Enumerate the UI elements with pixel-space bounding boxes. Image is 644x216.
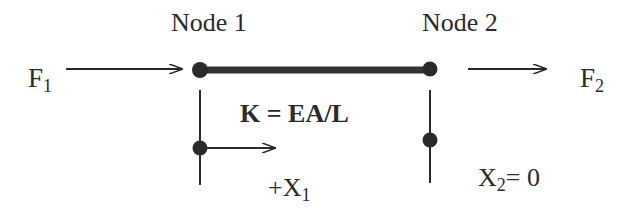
node-2-displacement-dot: [423, 133, 438, 148]
node-2-dot: [423, 62, 438, 77]
node-1-dot: [192, 62, 208, 78]
displacement-x1-label: +X1: [268, 173, 310, 205]
spring-element-diagram: Node 1 Node 2 F1 F2 K = EA/L +X1 X2= 0: [0, 0, 644, 216]
node-2-label: Node 2: [422, 8, 498, 37]
stiffness-label: K = EA/L: [240, 99, 349, 128]
force-f2-label: F2: [580, 63, 604, 96]
node-1-label: Node 1: [171, 8, 247, 37]
force-f1-label: F1: [28, 63, 52, 96]
displacement-x2-label: X2= 0: [478, 163, 540, 195]
